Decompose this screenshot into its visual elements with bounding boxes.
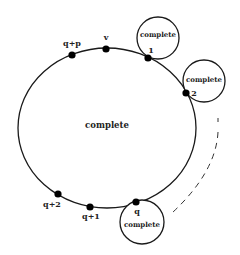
vertex-label: 1 [148,45,154,55]
vertex-dot [54,190,61,197]
dashed-continuation-arc [172,118,218,213]
diagram-canvas: complete completecompletecomplete q+pv12… [0,0,240,255]
vertex-label: q [134,206,140,216]
vertex-dot [144,54,151,61]
vertex-dot [182,89,189,96]
attached-circle-label: complete [124,220,161,229]
vertex-dot [68,51,75,58]
main-complete-label: complete [85,120,129,130]
vertex-label: q+1 [82,211,100,221]
vertex-dot [132,198,139,205]
vertex-label: q+2 [43,199,61,209]
vertex-label: v [103,32,109,42]
vertex-label: 2 [191,88,197,98]
vertex-dot [102,45,109,52]
vertex-dot [86,203,93,210]
attached-circle-label: complete [140,30,177,39]
attached-circle-label: complete [186,75,223,84]
vertex-label: q+p [63,38,81,48]
